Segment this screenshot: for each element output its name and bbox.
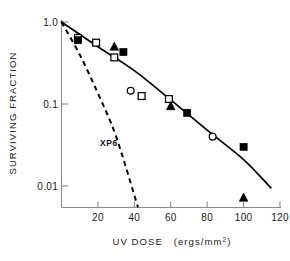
- x-tick-label: 80: [201, 212, 213, 223]
- marker-filled-square: [240, 143, 247, 150]
- x-tick-label: 100: [235, 212, 253, 223]
- y-tick-label: 1.0: [43, 17, 58, 28]
- x-tick-label: 40: [128, 212, 140, 223]
- survival-curve-plot: 20406080100120 1.00.10.01 XP6 SURVIVING …: [0, 0, 290, 261]
- marker-open-square: [166, 96, 173, 103]
- x-tick-label: 20: [92, 212, 104, 223]
- plot-annotations: XP6: [100, 138, 118, 148]
- normal-fit-curve: [62, 22, 271, 188]
- x-axis-tick-labels: 20406080100120: [92, 212, 289, 223]
- marker-filled-square: [120, 48, 127, 55]
- plot-curves: [62, 22, 271, 207]
- marker-filled-square: [184, 109, 191, 116]
- marker-open-circle: [209, 133, 216, 140]
- y-axis-title: SURVIVING FRACTION: [7, 51, 18, 174]
- marker-filled-triangle: [239, 193, 248, 201]
- x-axis-ticks: [98, 202, 280, 208]
- y-axis-tick-labels: 1.00.10.01: [37, 17, 58, 192]
- marker-filled-triangle: [110, 42, 119, 50]
- x-tick-label: 120: [271, 212, 289, 223]
- x-axis-title-units: (ergs/mm: [174, 236, 223, 247]
- data-point-markers: [74, 34, 248, 201]
- annotation-xp6: XP6: [100, 138, 118, 148]
- marker-open-circle: [127, 87, 134, 94]
- x-axis-title: UV DOSE (ergs/mm2): [112, 236, 231, 248]
- y-tick-label: 0.01: [37, 181, 58, 192]
- chart-container: 20406080100120 1.00.10.01 XP6 SURVIVING …: [0, 0, 290, 261]
- marker-filled-square: [74, 37, 81, 44]
- y-tick-label: 0.1: [43, 99, 58, 110]
- marker-open-square: [93, 39, 100, 46]
- x-axis-title-close-paren: ): [227, 236, 231, 247]
- marker-open-square: [138, 93, 145, 100]
- x-axis-title-main: UV DOSE: [112, 236, 162, 247]
- y-axis-ticks: [62, 22, 69, 186]
- marker-open-square: [111, 54, 118, 61]
- x-tick-label: 60: [165, 212, 177, 223]
